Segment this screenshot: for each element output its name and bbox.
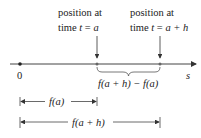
fa-label: f(a) [49, 96, 65, 108]
axis-label: s [186, 70, 190, 81]
label-position-ah-line1: position at [130, 7, 174, 18]
label-position-a-line1: position at [58, 7, 102, 18]
label-position-a-line2: time t = a [58, 22, 99, 33]
label-position-ah-line2: time t = a + h [130, 22, 188, 33]
difference-label: f(a + h) − f(a) [98, 78, 159, 90]
point-a [96, 63, 99, 66]
origin-label: 0 [17, 70, 22, 81]
point-a-plus-h [159, 63, 162, 66]
difference-brace [97, 67, 160, 76]
fah-label: f(a + h) [72, 117, 105, 129]
position-diagram: position at time t = a position at time … [0, 0, 201, 138]
origin-point [18, 62, 22, 66]
